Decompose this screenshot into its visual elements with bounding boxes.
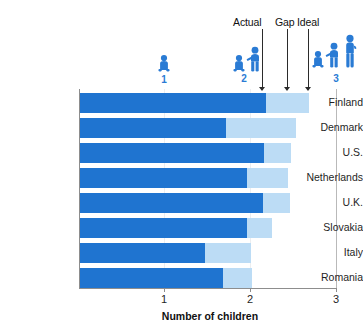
bar-segment-actual [80,168,247,188]
bar-segment-actual [80,143,264,163]
tick-mark-3 [336,289,337,292]
x-tick-label-3: 3 [326,293,346,305]
tick-mark-1 [164,289,165,292]
bar-segment-gap [247,168,288,188]
category-label-us: U.S. [289,147,363,158]
callout-label-ideal: Ideal [297,16,319,28]
bar-segment-gap [205,243,250,263]
bar-segment-actual [80,93,266,113]
bar-segment-gap [264,143,290,163]
callout-arrow-actual [259,87,265,91]
category-label-slovakia: Slovakia [289,222,363,233]
pictogram-group-3 [312,34,358,68]
table-row [80,93,309,113]
bar-segment-gap [226,118,296,138]
bar-segment-gap [263,193,289,213]
callout-line-ideal [308,29,309,88]
table-row [80,143,291,163]
pictogram-group-2 [233,46,262,72]
youth-figure-icon [246,46,262,72]
right-boundary-line [336,89,337,288]
category-label-uk: U.K. [289,197,363,208]
pictogram-number-2: 2 [234,73,254,84]
callout-line-actual [262,29,263,88]
x-axis-line [79,288,337,289]
x-tick-label-2: 2 [240,293,260,305]
child-figure-icon [312,50,324,68]
bar-segment-actual [80,118,226,138]
bar-segment-gap [266,93,309,113]
x-tick-label-1: 1 [154,293,174,305]
table-row [80,268,252,288]
category-label-netherlands: Netherlands [289,172,363,183]
table-row [80,168,288,188]
callout-arrow-ideal [305,87,311,91]
callout-arrow-gap [284,87,290,91]
bar-segment-gap [223,268,251,288]
youth-figure-icon [325,42,341,68]
bar-segment-actual [80,218,247,238]
child-figure-icon [233,54,245,72]
category-label-denmark: Denmark [289,122,363,133]
category-label-italy: Italy [289,247,363,258]
callout-label-gap: Gap [275,16,295,28]
child-figure-icon [158,54,170,72]
bar-segment-gap [247,218,272,238]
callout-line-gap [287,29,288,88]
fertility-gap-bar-chart: Actual Gap Ideal 1 2 [0,0,363,332]
pictogram-number-1: 1 [154,74,174,85]
bar-segment-actual [80,243,205,263]
x-axis-title: Number of children [130,310,290,322]
table-row [80,118,296,138]
callout-label-actual: Actual [233,16,262,28]
bar-segment-actual [80,268,223,288]
pictogram-group-1 [158,54,170,72]
adult-figure-icon [342,34,358,68]
bar-segment-actual [80,193,263,213]
table-row [80,193,290,213]
category-label-romania: Romania [289,272,363,283]
table-row [80,243,251,263]
tick-mark-2 [250,289,251,292]
table-row [80,218,272,238]
pictogram-number-3: 3 [326,73,346,84]
